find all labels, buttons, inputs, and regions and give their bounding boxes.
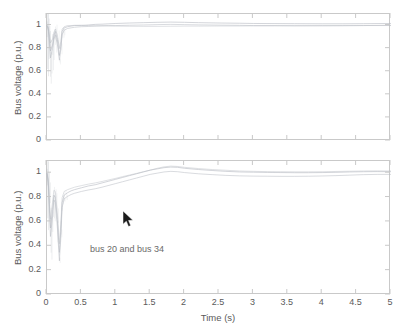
chart-panel-bottom: Bus voltage (p.u.) 00.20.40.60.81 00.511… <box>0 152 406 327</box>
tick-marks-bottom <box>0 152 406 327</box>
tick-marks-top <box>0 0 406 155</box>
figure-canvas: Bus voltage (p.u.) 00.20.40.60.81 Bus vo… <box>0 0 406 327</box>
chart-panel-top: Bus voltage (p.u.) 00.20.40.60.81 <box>0 0 406 155</box>
